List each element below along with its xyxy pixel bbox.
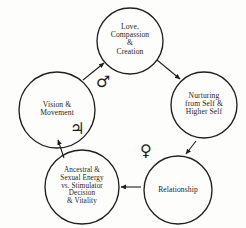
cycle-diagram: Love, Compassion & Creation Nurturing fr… (0, 0, 246, 228)
node-circles (19, 8, 237, 224)
venus-symbol: ♀ (140, 143, 152, 159)
jupiter-symbol: ♃ (70, 121, 84, 137)
node-circle-ancestral[interactable] (45, 150, 119, 224)
node-circle-relationship[interactable] (144, 156, 212, 224)
arrow-nurturing-to-relationship (186, 141, 196, 154)
node-circle-love[interactable] (97, 8, 163, 74)
mars-symbol: ♂ (96, 74, 110, 90)
cycle-diagram-canvas (0, 0, 246, 228)
arrow-love-to-nurturing (157, 60, 180, 79)
arrow-ancestral-to-vision (58, 140, 64, 158)
node-circle-nurturing[interactable] (171, 72, 237, 138)
